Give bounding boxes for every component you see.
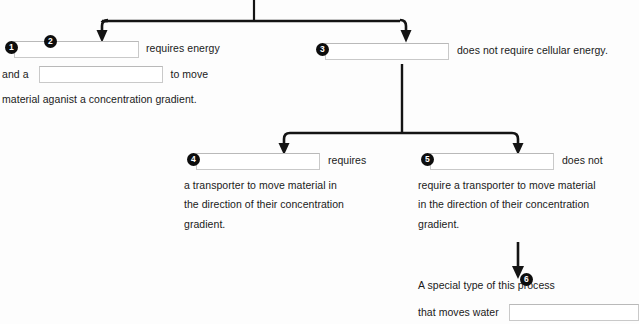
node-1-text-before-2: and a: [2, 66, 29, 84]
bubble-5: 5: [421, 153, 434, 166]
node-5-line-1: 5 does not: [418, 152, 639, 170]
node-4-line-2: a transporter to move material in: [184, 177, 404, 195]
bubble-2: 2: [44, 35, 57, 48]
blank-input-5[interactable]: [430, 153, 554, 170]
node-6: A special type of this process that move…: [418, 277, 639, 321]
node-5-line-2: require a transporter to move material: [418, 177, 639, 195]
bubble-6: 6: [520, 273, 533, 286]
node-1-line-2: and a 2 to move: [2, 66, 302, 84]
node-5-line-3: in the direction of their concentration: [418, 196, 639, 214]
blank-input-3[interactable]: [325, 43, 449, 60]
node-1-text-after-2: to move: [170, 66, 208, 84]
node-4-line-1: 4 requires: [184, 152, 404, 170]
node-5: 5 does not require a transporter to move…: [418, 152, 639, 233]
node-4-line-3: the direction of their concentration: [184, 196, 404, 214]
blank-input-6[interactable]: [509, 304, 639, 321]
node-5-text-after-1: does not: [562, 152, 603, 170]
node-5-line-4: gradient.: [418, 216, 639, 234]
blank-input-2[interactable]: [39, 66, 163, 83]
node-1-text-after-1: requires energy: [146, 40, 220, 58]
node-4-text-after-1: requires: [328, 152, 366, 170]
node-6-text-before-2: that moves water: [418, 304, 499, 322]
bubble-1: 1: [5, 41, 18, 54]
bubble-4: 4: [187, 153, 200, 166]
node-1-line-3: material aganist a concentration gradien…: [2, 91, 302, 109]
blank-input-1[interactable]: [14, 41, 139, 58]
node-3: 3 does not require cellular energy.: [312, 42, 639, 60]
node-6-line-2: that moves water 6: [418, 304, 639, 322]
node-4-line-4: gradient.: [184, 216, 404, 234]
node-3-text-after-1: does not require cellular energy.: [457, 42, 608, 60]
blank-input-4[interactable]: [196, 153, 320, 170]
node-3-line-1: 3 does not require cellular energy.: [312, 42, 639, 60]
node-1: 1 requires energy and a 2 to move materi…: [2, 40, 302, 109]
concept-map-diagram: 1 requires energy and a 2 to move materi…: [0, 0, 639, 324]
node-4: 4 requires a transporter to move materia…: [184, 152, 404, 233]
bubble-3: 3: [316, 43, 329, 56]
